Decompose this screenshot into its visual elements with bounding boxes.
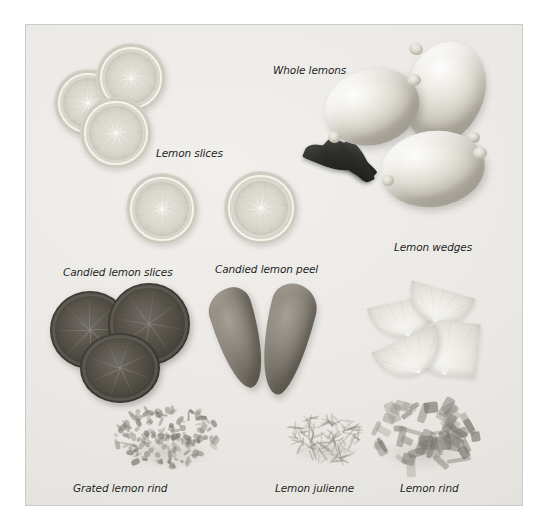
photo-plate: Whole lemons Lemon slices Lemon wedges C… [25, 24, 523, 506]
slice-core [112, 129, 120, 137]
lemon-tip-icon [407, 74, 421, 86]
candied-lemon-peel-group [211, 277, 341, 412]
label-lemon-slices: Lemon slices [156, 147, 223, 159]
lemon-tip-icon [473, 147, 487, 159]
label-lemon-rind: Lemon rind [400, 482, 459, 494]
label-lemon-wedges: Lemon wedges [394, 241, 472, 253]
lemon-tip-icon [328, 131, 341, 143]
candied-lemon-peel [250, 279, 322, 399]
candied-lemon-slice [80, 333, 160, 403]
grated-lemon-rind-pile [112, 403, 222, 471]
slice-core [158, 205, 166, 213]
lemon-tip-icon [382, 175, 394, 186]
label-candied-lemon-peel: Candied lemon peel [215, 263, 318, 275]
lemon-slices-pair [126, 171, 301, 247]
lemon-slice [224, 171, 298, 245]
lemon-slice [126, 173, 198, 245]
slice-core [127, 74, 135, 82]
label-grated-lemon-rind: Grated lemon rind [73, 482, 167, 494]
candied-lemon-slices-group [50, 283, 200, 408]
label-lemon-julienne: Lemon julienne [275, 482, 354, 494]
label-whole-lemons: Whole lemons [273, 64, 346, 76]
lemon-wedges-group [364, 285, 494, 405]
figure-page: Whole lemons Lemon slices Lemon wedges C… [0, 0, 548, 532]
label-candied-lemon-slices: Candied lemon slices [63, 266, 173, 278]
lemon-julienne-pile [289, 413, 363, 465]
lemon-rind-pile [371, 399, 481, 473]
lemon-slice [80, 97, 152, 169]
